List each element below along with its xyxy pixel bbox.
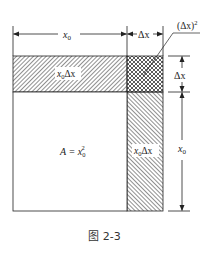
figure-caption: 图 2-3: [0, 227, 209, 243]
corner-region: [127, 56, 163, 92]
right-x0-label: x0: [177, 143, 186, 156]
area-expansion-diagram: x0 Δx (Δx)2 Δx x0 x0Δx x0Δx A = x02: [0, 0, 209, 225]
right-dx-label: Δx: [174, 70, 185, 81]
right-strip-label: x0Δx: [133, 146, 153, 157]
dx-squared-label: (Δx)2: [177, 19, 197, 32]
area-label: A = x02: [59, 144, 85, 158]
top-x0-label: x0: [62, 29, 71, 42]
top-dx-label: Δx: [138, 29, 149, 40]
top-strip-label: x0Δx: [56, 69, 76, 80]
